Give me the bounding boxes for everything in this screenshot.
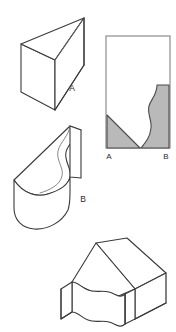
cross-section-panel: A B (106, 36, 170, 161)
ogee-right-face (70, 126, 81, 178)
profile-a-label: A (106, 152, 112, 161)
solid-ogee-label: B (80, 194, 86, 204)
figure-root: A A B B (0, 0, 176, 332)
profile-b-label: B (163, 152, 168, 161)
solid-ogee: B (14, 126, 86, 229)
solid-wedge-label: A (69, 83, 75, 93)
solid-wedge: A (21, 18, 84, 110)
figure-canvas: A A B B (0, 0, 176, 332)
combined-rib-face (125, 289, 135, 324)
solid-combined (61, 238, 166, 326)
